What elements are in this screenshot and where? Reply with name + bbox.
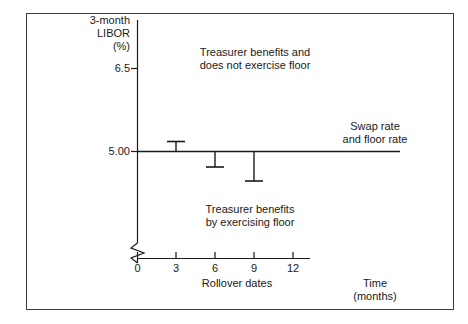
time-axis-label: Time (months) <box>330 277 420 303</box>
y-tick-label-5-00: 5.00 <box>64 145 130 158</box>
x-tick-label-12: 12 <box>281 262 305 275</box>
annotation-above-line-1: Treasurer benefits and <box>155 46 355 59</box>
libor-marker-month-9 <box>245 152 263 182</box>
x-axis-label: Rollover dates <box>177 277 297 290</box>
time-axis-label-line-1: Time <box>330 277 420 290</box>
annotation-above-line-2: does not exercise floor <box>155 59 355 72</box>
x-tick-label-0: 0 <box>126 262 150 275</box>
y-axis-title-line-3: (%) <box>52 40 130 53</box>
annotation-below-line: Treasurer benefits by exercising floor <box>150 203 350 229</box>
y-tick-label-6-5: 6.5 <box>70 62 130 75</box>
annotation-rate-line-1: Swap rate <box>310 120 440 133</box>
time-axis-label-line-2: (months) <box>330 290 420 303</box>
chart-figure: 3-month LIBOR (%) 6.5 5.00 0 3 6 9 12 Ro… <box>0 0 468 324</box>
annotation-rate-line: Swap rate and floor rate <box>310 120 440 146</box>
libor-marker-month-3 <box>167 142 185 152</box>
libor-marker-month-6 <box>206 152 224 168</box>
x-tick-label-3: 3 <box>164 262 188 275</box>
annotation-rate-line-2: and floor rate <box>310 133 440 146</box>
y-axis-title-line-2: LIBOR <box>52 27 130 40</box>
y-axis-title-line-1: 3-month <box>52 14 130 27</box>
annotation-above-line: Treasurer benefits and does not exercise… <box>155 46 355 72</box>
x-tick-label-9: 9 <box>242 262 266 275</box>
y-axis-title: 3-month LIBOR (%) <box>52 14 130 53</box>
annotation-below-line-2: by exercising floor <box>150 216 350 229</box>
annotation-below-line-1: Treasurer benefits <box>150 203 350 216</box>
x-tick-label-6: 6 <box>203 262 227 275</box>
